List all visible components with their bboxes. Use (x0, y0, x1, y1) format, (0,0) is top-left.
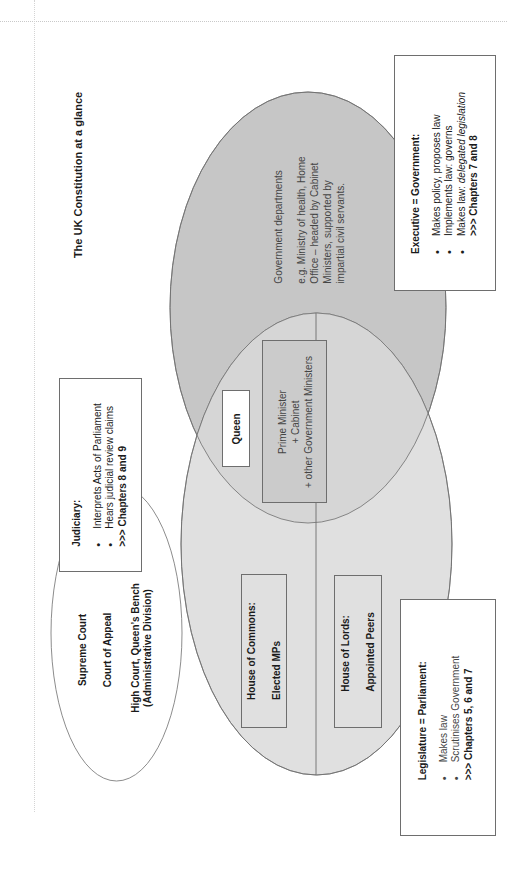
court-high-court: High Court, Queen’s Bench (Administrativ… (130, 583, 154, 713)
judiciary-text: Judiciary: Interprets Acts of Parliament… (71, 403, 129, 547)
judiciary-bullet-2: Hears judicial review claims (104, 403, 117, 547)
executive-header: Executive = Government: (410, 92, 423, 254)
prime-minister-text: Prime Minister + Cabinet + other Governm… (275, 356, 314, 488)
legislature-text: Legislature = Parliament: Makes law Scru… (417, 656, 475, 781)
executive-text: Executive = Government: Makes policy, pr… (410, 92, 481, 254)
judiciary-bullet-1: Interprets Acts of Parliament (92, 403, 105, 547)
house-of-commons-text: House of Commons: Elected MPs (245, 602, 283, 700)
court-appeal: Court of Appeal (102, 613, 114, 688)
legislature-bullet-2: Scrutinises Government (450, 656, 463, 781)
judiciary-chapters: >>> Chapters 8 and 9 (117, 403, 130, 547)
page-title: The UK Constitution at a glance (72, 92, 84, 258)
queen-label: Queen (231, 413, 242, 444)
departments-title: Government departments (272, 156, 285, 283)
executive-bullet-2: Implements law: governs (443, 92, 456, 254)
legislature-chapters: >>> Chapters 5, 6 and 7 (463, 656, 476, 781)
executive-bullet-3: Makes law: delegated legislation (455, 92, 468, 254)
legislature-bullet-1: Makes law (438, 656, 451, 781)
executive-bullet-1: Makes policy, proposes law (430, 92, 443, 254)
executive-chapters: >>> Chapters 7 and 8 (468, 92, 481, 254)
house-of-lords-text: House of Lords: Appointed Peers (339, 612, 377, 691)
court-supreme: Supreme Court (77, 614, 89, 686)
government-departments-text: Government departments e.g. Ministry of … (272, 156, 347, 283)
judiciary-header: Judiciary: (71, 403, 84, 547)
legislature-header: Legislature = Parliament: (417, 656, 430, 781)
